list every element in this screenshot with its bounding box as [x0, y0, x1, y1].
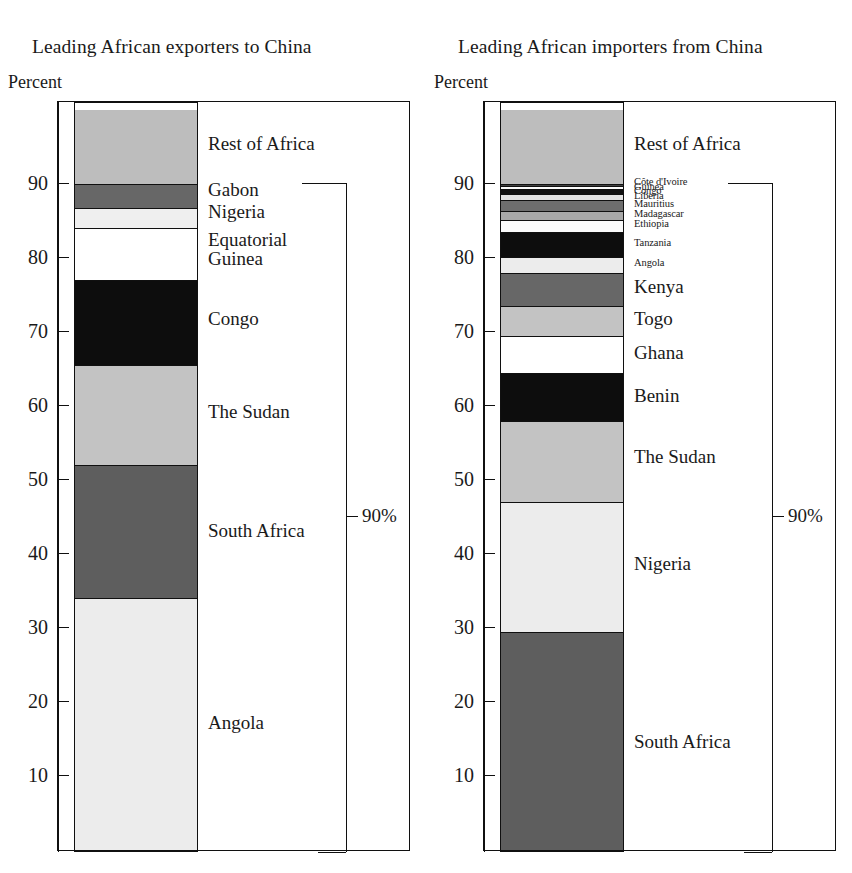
- segment-label-kenya: Kenya: [634, 277, 684, 297]
- bar-segment-kenya: [501, 273, 623, 306]
- segment-divider: [501, 220, 623, 221]
- segment-divider: [75, 598, 197, 599]
- segment-divider: [501, 632, 623, 633]
- annotation-bracket: [772, 183, 773, 852]
- segment-label-gabon: Gabon: [208, 180, 259, 200]
- y-tick-label-60: 60: [428, 394, 474, 417]
- y-tick-30: [484, 627, 495, 628]
- y-tick-label-40: 40: [428, 542, 474, 565]
- y-tick-label-50: 50: [428, 468, 474, 491]
- segment-label-madagascar: Madagascar: [634, 209, 684, 220]
- segment-divider: [75, 465, 197, 466]
- bar-segment-nigeria: [501, 502, 623, 632]
- segment-label-tanzania: Tanzania: [634, 238, 671, 249]
- y-tick-label-20: 20: [2, 690, 48, 713]
- segment-divider: [75, 208, 197, 209]
- chart-title-exporters: Leading African exporters to China: [32, 36, 312, 58]
- y-tick-50: [484, 479, 495, 480]
- y-tick-label-40: 40: [2, 542, 48, 565]
- segment-divider: [75, 280, 197, 281]
- segment-label-nigeria: Nigeria: [208, 202, 265, 222]
- stacked-bar-exporters: [74, 102, 198, 852]
- segment-label-angola: Angola: [634, 258, 664, 269]
- y-tick-label-30: 30: [428, 616, 474, 639]
- bracket-arm-bottom: [744, 852, 772, 853]
- segment-label-rest-of-africa: Rest of Africa: [634, 134, 741, 154]
- segment-label-south-africa: South Africa: [634, 732, 731, 752]
- y-tick-60: [58, 405, 69, 406]
- bar-segment-mauritius: [501, 200, 623, 211]
- bar-segment-nigeria: [75, 208, 197, 229]
- chart-panel-importers: Leading African importers from China Per…: [426, 0, 852, 873]
- y-tick-label-30: 30: [2, 616, 48, 639]
- y-tick-10: [484, 775, 495, 776]
- plot-frame-importers: 102030405060708090South AfricaNigeriaThe…: [483, 101, 836, 851]
- y-tick-90: [484, 183, 495, 184]
- segment-label-the-sudan: The Sudan: [634, 447, 716, 467]
- segment-divider: [501, 200, 623, 201]
- y-tick-label-80: 80: [2, 246, 48, 269]
- segment-label-ethiopia: Ethiopia: [634, 219, 669, 230]
- y-tick-60: [484, 405, 495, 406]
- bar-segment-angola: [75, 598, 197, 850]
- y-axis-caption-importers: Percent: [434, 72, 488, 93]
- y-axis-caption-exporters: Percent: [8, 72, 62, 93]
- bar-segment-ghana: [501, 336, 623, 373]
- segment-divider: [501, 257, 623, 258]
- chart-panel-exporters: Leading African exporters to China Perce…: [0, 0, 426, 873]
- y-tick-80: [484, 257, 495, 258]
- bar-segment-angola: [501, 257, 623, 273]
- y-tick-label-70: 70: [2, 320, 48, 343]
- y-axis-spine-exporters: [58, 102, 59, 852]
- stacked-bar-importers: [500, 102, 624, 852]
- y-tick-20: [58, 701, 69, 702]
- segment-divider: [501, 421, 623, 422]
- bar-segment-ethiopia: [501, 220, 623, 232]
- bar-segment-madagascar: [501, 211, 623, 220]
- segment-label-ghana: Ghana: [634, 343, 684, 363]
- segment-label-c-te-d-ivoire: Côte d'Ivoire: [634, 177, 687, 188]
- segment-divider: [75, 228, 197, 229]
- segment-divider: [501, 373, 623, 374]
- segment-divider: [75, 365, 197, 366]
- segment-label-angola: Angola: [208, 713, 264, 733]
- segment-label-benin: Benin: [634, 386, 679, 406]
- y-tick-label-80: 80: [428, 246, 474, 269]
- annotation-bracket: [346, 183, 347, 852]
- segment-label-south-africa: South Africa: [208, 521, 305, 541]
- y-tick-70: [484, 331, 495, 332]
- segment-divider: [501, 211, 623, 212]
- segment-divider: [501, 184, 623, 185]
- segment-divider: [501, 502, 623, 503]
- y-tick-80: [58, 257, 69, 258]
- y-tick-label-90: 90: [2, 172, 48, 195]
- segment-divider: [501, 189, 623, 190]
- y-tick-20: [484, 701, 495, 702]
- bar-segment-south-africa: [501, 632, 623, 850]
- segment-divider: [501, 273, 623, 274]
- bar-segment-benin: [501, 373, 623, 421]
- bracket-arm-middle: [347, 516, 358, 517]
- y-axis-spine-importers: [484, 102, 485, 852]
- bar-segment-the-sudan: [75, 365, 197, 465]
- bracket-arm-middle: [773, 516, 784, 517]
- y-tick-label-10: 10: [2, 764, 48, 787]
- y-tick-label-90: 90: [428, 172, 474, 195]
- segment-divider: [501, 186, 623, 187]
- bracket-arm-bottom: [318, 852, 346, 853]
- y-tick-30: [58, 627, 69, 628]
- y-tick-70: [58, 331, 69, 332]
- y-tick-label-50: 50: [2, 468, 48, 491]
- bracket-arm-top: [728, 183, 772, 184]
- bar-segment-tanzania: [501, 232, 623, 256]
- plot-frame-exporters: 102030405060708090AngolaSouth AfricaThe …: [57, 101, 410, 851]
- segment-label-equatorial-guinea: Equatorial Guinea: [208, 230, 287, 270]
- bar-segment-rest-of-africa: [75, 110, 197, 184]
- y-tick-90: [58, 183, 69, 184]
- y-tick-label-10: 10: [428, 764, 474, 787]
- bar-segment-south-africa: [75, 465, 197, 598]
- bar-segment-the-sudan: [501, 421, 623, 502]
- annotation-label-90-percent: 90%: [788, 505, 823, 527]
- bar-segment-congo: [75, 280, 197, 365]
- segment-label-rest-of-africa: Rest of Africa: [208, 134, 315, 154]
